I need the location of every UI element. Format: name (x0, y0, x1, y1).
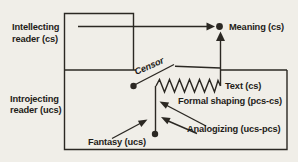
top-box-outline (65, 14, 134, 71)
label-analogizing: Analogizing (ucs-pcs) (187, 124, 280, 136)
label-text: Text (cs) (225, 81, 261, 93)
meaning-node-dot (216, 23, 223, 30)
fantasy-arrowhead (138, 120, 148, 127)
resistor-zigzag (156, 80, 221, 93)
formal-shaping-arrowhead (160, 102, 170, 109)
censor-pivot-dot (130, 83, 136, 89)
label-formal-shaping: Formal shaping (pcs-cs) (178, 96, 282, 108)
label-introjecting-line1: Introjecting (10, 94, 61, 106)
fantasy-node-dot (152, 131, 158, 137)
label-intellecting-reader: Intellecting reader (cs) (12, 22, 59, 45)
label-meaning: Meaning (cs) (229, 22, 284, 34)
diagram: Intellecting reader (cs) Introjecting re… (0, 0, 298, 162)
label-intellecting-line1: Intellecting (12, 22, 59, 34)
meaning-arrowhead-right (207, 23, 216, 31)
censor-flap-segment (175, 66, 221, 68)
label-introjecting-line2: reader (ucs) (10, 105, 61, 117)
label-introjecting-reader: Introjecting reader (ucs) (10, 94, 61, 117)
label-fantasy: Fantasy (ucs) (88, 137, 146, 149)
analogizing-arrowhead (161, 117, 171, 124)
meaning-arrowhead-up (216, 32, 225, 42)
label-intellecting-line2: reader (cs) (12, 34, 59, 46)
